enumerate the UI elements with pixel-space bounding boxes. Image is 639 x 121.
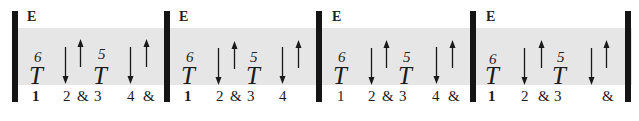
count-and: & [382,89,394,104]
down-strum-arrow-icon [520,48,529,85]
barline [625,11,631,102]
measure-3: E 6 T 5 T 1 2 & 3 4 & [316,0,468,121]
count-1: 1 [488,89,496,104]
up-strum-arrow-icon [294,40,303,68]
count-3: 3 [94,89,102,104]
up-strum-arrow-icon [382,40,391,68]
up-strum-arrow-icon [142,39,151,67]
thumb-stroke: T [93,63,107,88]
down-strum-arrow-icon [278,47,287,84]
count-and: & [230,89,242,104]
count-and: & [77,89,89,104]
count-3: 3 [399,89,407,104]
fret-number: 5 [98,47,106,62]
count-4: 4 [279,89,287,104]
thumb-stroke: T [181,63,195,88]
up-strum-arrow-icon [537,40,546,68]
chord-label: E [27,9,36,25]
measure-1: E 6 T 5 T 1 2 & 3 4 & [12,0,164,121]
count-2: 2 [368,89,376,104]
thumb-stroke: T [246,63,260,88]
thumb-stroke: T [485,63,499,88]
count-3: 3 [554,89,562,104]
count-1: 1 [184,89,192,104]
up-strum-arrow-icon [448,40,457,68]
down-strum-arrow-icon [367,48,376,85]
count-1: 1 [32,89,40,104]
down-strum-arrow-icon [432,47,441,84]
up-strum-arrow-icon [602,40,611,68]
count-and: & [538,89,550,104]
measure-4: E 6 T 5 T 1 2 & 3 & [470,0,622,121]
down-strum-arrow-icon [126,47,135,84]
count-2: 2 [521,89,529,104]
thumb-stroke: T [398,63,412,88]
down-strum-arrow-icon [587,48,596,85]
chord-label: E [179,9,188,25]
chord-label: E [332,9,341,25]
count-2: 2 [216,89,224,104]
down-strum-arrow-icon [214,48,223,85]
down-strum-arrow-icon [61,47,70,84]
measure-2: E 6 T 5 T 1 2 & 3 4 [164,0,316,121]
count-and: & [143,89,155,104]
strum-pattern-score: E 6 T 5 T 1 2 & 3 4 & E 6 T 5 [0,0,639,121]
count-4: 4 [127,89,135,104]
count-4: 4 [432,89,440,104]
up-strum-arrow-icon [230,41,239,69]
thumb-stroke: T [552,63,566,88]
count-1: 1 [337,89,345,104]
count-2: 2 [63,89,71,104]
count-and: & [448,89,460,104]
chord-label: E [486,9,495,25]
up-strum-arrow-icon [76,39,85,67]
thumb-stroke: T [333,63,347,88]
thumb-stroke: T [29,63,43,88]
count-3: 3 [247,89,255,104]
count-and: & [602,89,614,104]
